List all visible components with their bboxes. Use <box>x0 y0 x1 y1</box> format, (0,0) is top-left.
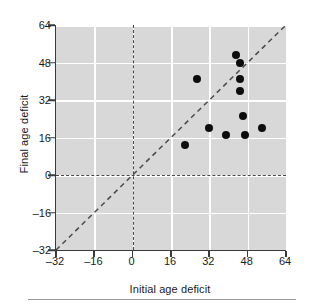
y-tick-label: 32 <box>5 94 51 106</box>
y-tick-label: 16 <box>5 132 51 144</box>
y-tick-mark <box>48 62 55 64</box>
y-tick-mark <box>48 24 55 26</box>
x-tick-mark <box>93 251 95 257</box>
y-tick-label: –16 <box>5 207 51 219</box>
plot-area <box>56 25 286 250</box>
x-tick-mark <box>170 251 172 257</box>
x-tick-mark <box>55 251 57 257</box>
y-tick-label: 0 <box>5 169 51 181</box>
x-axis-title: Initial age deficit <box>55 283 285 295</box>
data-point <box>181 141 189 149</box>
gridline-vertical <box>286 25 288 250</box>
y-tick-label: 48 <box>5 57 51 69</box>
x-tick-mark <box>132 251 134 257</box>
y-tick-mark <box>48 174 55 176</box>
zero-horizontal <box>56 175 286 176</box>
plot-panel <box>55 25 286 251</box>
x-tick-mark <box>208 251 210 257</box>
bottom-divider <box>28 299 296 300</box>
y-tick-mark <box>48 99 55 101</box>
y-tick-mark <box>48 249 55 251</box>
y-tick-mark <box>48 137 55 139</box>
identity-line <box>56 25 286 250</box>
scatter-plot-figure: Final age deficit Initial age deficit –3… <box>0 0 319 305</box>
zero-vertical <box>133 25 134 250</box>
x-tick-mark <box>285 251 287 257</box>
y-tick-label: 64 <box>5 19 51 31</box>
x-tick-mark <box>247 251 249 257</box>
y-tick-mark <box>48 212 55 214</box>
